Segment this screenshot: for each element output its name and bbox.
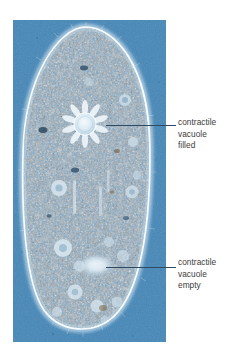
label-vacuole-empty: contractile vacuole empty <box>178 257 216 292</box>
leader-line-vacuole-empty <box>106 267 176 268</box>
vacuole-empty-core <box>87 260 107 272</box>
micrograph-photo <box>13 20 166 342</box>
label-vacuole-filled: contractile vacuole filled <box>178 117 216 152</box>
micrograph-canvas <box>13 20 166 342</box>
paramecium-figure: contractile vacuole filled contractile v… <box>0 0 244 358</box>
contractile-vacuole-empty <box>81 256 113 276</box>
leader-line-vacuole-filled <box>106 125 176 126</box>
